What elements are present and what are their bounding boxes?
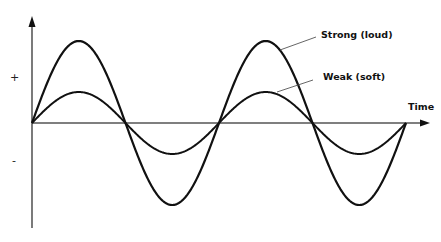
strong-label: Strong (loud): [321, 29, 393, 40]
plus-label: +: [10, 71, 19, 84]
x-axis-arrow-icon: [420, 120, 430, 127]
minus-label: -: [12, 154, 16, 167]
strong-leader-line: [280, 37, 316, 50]
y-axis-arrow-icon: [29, 16, 36, 27]
weak-leader-line: [277, 80, 313, 92]
time-axis-label: Time: [408, 101, 434, 112]
weak-label: Weak (soft): [323, 71, 385, 82]
